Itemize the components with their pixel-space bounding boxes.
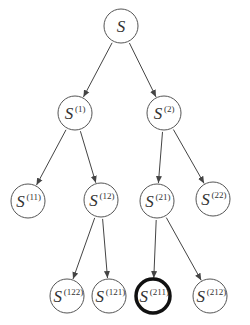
node-label: S <box>145 192 154 211</box>
node-label: S <box>117 17 126 36</box>
edge-arrow <box>173 130 204 184</box>
node-superscript: (122) <box>64 287 84 297</box>
tree-node-n122: S(122) <box>50 279 84 313</box>
tree-node-n121: S(121) <box>92 279 126 313</box>
edge-arrow <box>80 131 95 183</box>
edge-arrow <box>166 218 201 281</box>
node-label: S <box>154 104 163 123</box>
edges-layer <box>37 43 205 280</box>
edge-arrow <box>83 43 112 97</box>
node-superscript: (2) <box>164 104 175 114</box>
tree-node-n12: S(12) <box>84 183 118 217</box>
node-superscript: (211) <box>150 287 169 297</box>
tree-diagram: SS(1)S(2)S(11)S(12)S(21)S(22)S(122)S(121… <box>0 0 250 325</box>
node-superscript: (121) <box>106 287 126 297</box>
node-label: S <box>201 190 210 209</box>
node-superscript: (22) <box>211 190 226 200</box>
node-superscript: (12) <box>99 191 114 201</box>
node-label: S <box>16 192 25 211</box>
tree-node-n1: S(1) <box>58 96 92 130</box>
edge-arrow <box>37 130 67 185</box>
tree-node-n21: S(21) <box>140 184 174 218</box>
node-label: S <box>89 191 98 210</box>
tree-node-n212: S(212) <box>193 279 227 313</box>
tree-node-n211: S(211) <box>136 279 170 313</box>
node-label: S <box>96 287 105 306</box>
edge-arrow <box>129 43 156 97</box>
node-superscript: (11) <box>26 192 41 202</box>
edge-arrow <box>73 218 95 279</box>
node-label: S <box>65 104 74 123</box>
tree-node-n2: S(2) <box>147 96 181 130</box>
edge-arrow <box>154 220 156 278</box>
node-superscript: (212) <box>207 287 227 297</box>
nodes-layer: SS(1)S(2)S(11)S(12)S(21)S(22)S(122)S(121… <box>11 9 230 313</box>
node-label: S <box>197 287 206 306</box>
tree-node-n22: S(22) <box>196 182 230 216</box>
node-superscript: (21) <box>155 192 170 202</box>
node-label: S <box>54 287 63 306</box>
tree-node-root: S <box>104 9 138 43</box>
edge-arrow <box>158 132 162 183</box>
tree-node-n11: S(11) <box>11 184 45 218</box>
edge-arrow <box>103 219 108 278</box>
node-superscript: (1) <box>75 104 86 114</box>
node-label: S <box>140 287 149 306</box>
